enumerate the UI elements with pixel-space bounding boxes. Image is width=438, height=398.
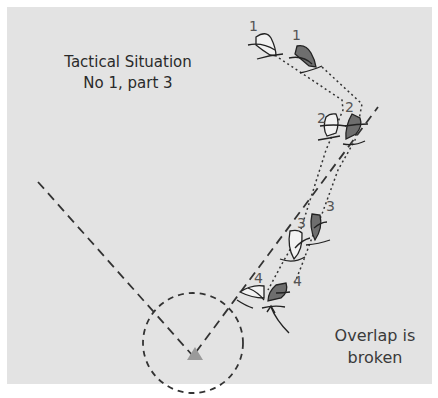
zone-circle <box>143 293 243 393</box>
annotation-arrow <box>267 306 289 333</box>
port-layline <box>38 182 193 356</box>
position-1: 1 1 <box>248 18 322 73</box>
title-line-1: Tactical Situation <box>48 52 208 73</box>
overlap-annotation: Overlap is broken <box>330 325 420 369</box>
annotation-line-2: broken <box>330 347 420 369</box>
dark-boat-1-label: 1 <box>292 27 301 43</box>
dark-boat-4-label: 4 <box>293 273 302 289</box>
title-line-2: No 1, part 3 <box>48 73 208 94</box>
white-boat-3 <box>289 230 302 259</box>
white-boat-1-label: 1 <box>249 18 258 34</box>
diagram-title: Tactical Situation No 1, part 3 <box>48 52 208 94</box>
annotation-line-1: Overlap is <box>330 325 420 347</box>
mark-triangle-icon <box>187 347 203 360</box>
white-boat-3-label: 3 <box>297 215 306 231</box>
position-3: 3 3 <box>280 198 335 261</box>
white-boat-4-label: 4 <box>254 270 263 286</box>
dark-boat-1 <box>295 46 316 67</box>
boat-tracks <box>268 58 362 290</box>
dark-boat-2 <box>346 114 361 139</box>
laylines <box>38 107 378 356</box>
starboard-layline <box>196 107 378 352</box>
white-boat-2-label: 2 <box>317 110 326 126</box>
dark-boat-3-label: 3 <box>326 198 335 214</box>
position-4: 4 4 <box>237 270 302 308</box>
dark-boat-2-label: 2 <box>345 99 354 115</box>
